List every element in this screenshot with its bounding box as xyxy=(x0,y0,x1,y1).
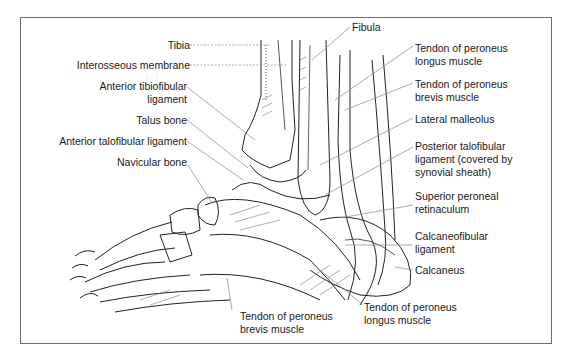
label-fibula: Fibula xyxy=(352,21,381,34)
label-superior-peroneal-retinaculum-line1: Superior peroneal xyxy=(415,190,498,203)
label-anterior-tibiofibular-ligament-line2: ligament xyxy=(147,93,187,106)
label-bottom-peroneus-longus-line1: Tendon of peroneus xyxy=(364,301,457,314)
label-navicular-bone: Navicular bone xyxy=(117,156,187,169)
label-interosseous-membrane: Interosseous membrane xyxy=(77,59,190,72)
label-calcaneofibular-ligament-line2: ligament xyxy=(415,243,455,256)
label-lateral-malleolus: Lateral malleolus xyxy=(415,113,494,126)
label-peroneus-brevis-tendon-line1: Tendon of peroneus xyxy=(415,78,508,91)
label-bottom-peroneus-brevis-line1: Tendon of peroneus xyxy=(240,310,333,323)
label-peroneus-brevis-tendon-line2: brevis muscle xyxy=(415,91,479,104)
label-peroneus-longus-tendon-line2: longus muscle xyxy=(415,55,482,68)
label-talus-bone: Talus bone xyxy=(136,114,187,127)
label-tibia: Tibia xyxy=(168,39,190,52)
label-superior-peroneal-retinaculum-line2: retinaculum xyxy=(415,203,469,216)
label-posterior-talofibular-line1: Posterior talofibular xyxy=(415,140,505,153)
label-calcaneofibular-ligament-line1: Calcaneofibular xyxy=(415,230,488,243)
label-posterior-talofibular-line3: synovial sheath) xyxy=(415,166,491,179)
label-anterior-talofibular-ligament: Anterior talofibular ligament xyxy=(59,135,187,148)
label-bottom-peroneus-longus-line2: longus muscle xyxy=(364,314,431,327)
label-posterior-talofibular-line2: ligament (covered by xyxy=(415,153,512,166)
label-bottom-peroneus-brevis-line2: brevis muscle xyxy=(240,323,304,336)
label-calcaneus: Calcaneus xyxy=(415,264,465,277)
label-anterior-tibiofibular-ligament-line1: Anterior tibiofibular xyxy=(99,80,187,93)
label-peroneus-longus-tendon-line1: Tendon of peroneus xyxy=(415,42,508,55)
